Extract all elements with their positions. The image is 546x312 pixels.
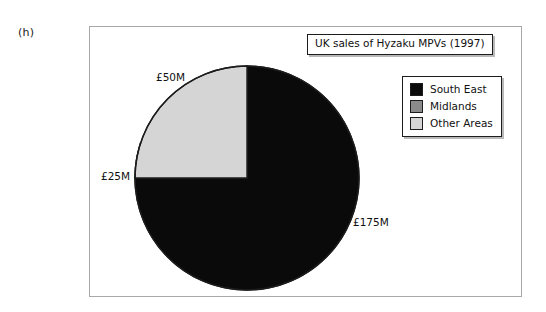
chart-legend: South East Midlands Other Areas xyxy=(402,76,502,137)
slice-label-midlands: £25M xyxy=(101,171,130,183)
legend-swatch-midlands xyxy=(410,100,423,113)
slice-label-south-east: £175M xyxy=(353,217,389,229)
chart-title: UK sales of Hyzaku MPVs (1997) xyxy=(307,34,493,55)
legend-label-south-east: South East xyxy=(430,84,487,95)
part-label: (h) xyxy=(18,26,34,39)
figure-page: (h) £50M £25M £175M UK sales of Hyzaku M… xyxy=(0,0,546,312)
legend-item-south-east[interactable]: South East xyxy=(410,83,493,96)
slice-label-other-areas: £50M xyxy=(156,72,185,84)
pie-chart xyxy=(131,62,363,294)
legend-label-other-areas: Other Areas xyxy=(430,118,493,129)
legend-swatch-other-areas xyxy=(410,117,423,130)
chart-title-text: UK sales of Hyzaku MPVs (1997) xyxy=(315,37,485,49)
pie-slice-other-areas[interactable] xyxy=(135,66,247,178)
figure-frame: £50M £25M £175M UK sales of Hyzaku MPVs … xyxy=(89,26,522,297)
legend-swatch-south-east xyxy=(410,83,423,96)
legend-label-midlands: Midlands xyxy=(430,101,477,112)
legend-item-midlands[interactable]: Midlands xyxy=(410,100,493,113)
legend-item-other-areas[interactable]: Other Areas xyxy=(410,117,493,130)
